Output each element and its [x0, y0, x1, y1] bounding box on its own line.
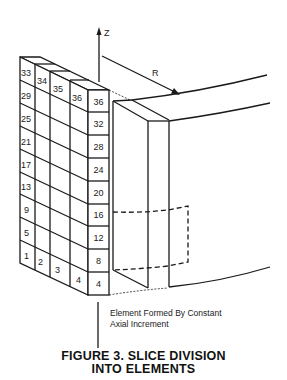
annotation-line-2: Axial Increment — [110, 319, 169, 329]
slab-bottom-curve — [169, 267, 270, 287]
cell-label: 34 — [37, 76, 47, 86]
cell-label: 20 — [93, 188, 103, 198]
cell-label: 25 — [21, 114, 31, 124]
cell-label: 8 — [96, 256, 101, 266]
cell-label: 35 — [53, 84, 63, 94]
cell-label: 1 — [24, 251, 29, 261]
cell-label: 29 — [21, 91, 31, 101]
cell-label: 33 — [21, 68, 31, 78]
z-axis-arrowhead-icon — [97, 27, 102, 35]
radius-arrow-line — [102, 56, 177, 93]
cell-label: 21 — [21, 137, 31, 147]
cell-label: 2 — [38, 257, 43, 267]
slab-inner-top-curve — [169, 103, 270, 121]
cell-label: 12 — [93, 233, 103, 243]
axial-element-dashed — [113, 206, 188, 270]
cell-label: 16 — [93, 210, 103, 220]
cell-label: 13 — [21, 182, 31, 192]
cell-label: 28 — [93, 142, 103, 152]
cell-label: 36 — [72, 93, 82, 103]
cell-label: 4 — [76, 275, 81, 285]
cell-label: 5 — [24, 228, 29, 238]
cell-label: 24 — [93, 165, 103, 175]
slice-division-diagram: Z R 36 32 28 24 20 16 12 8 4 33 29 25 21… — [0, 0, 287, 380]
annotation-line-1: Element Formed By Constant — [110, 308, 222, 318]
cell-label: 17 — [21, 160, 31, 170]
slab-outer-top-curve — [132, 75, 267, 100]
figure-caption-line-2: INTO ELEMENTS — [0, 363, 287, 376]
cell-label: 32 — [93, 119, 103, 129]
cell-label: 36 — [93, 97, 103, 107]
cell-label: 4 — [96, 279, 101, 289]
cell-label: 9 — [24, 205, 29, 215]
radius-label: R — [152, 68, 159, 78]
z-axis-label: Z — [104, 28, 110, 38]
cell-label: 3 — [55, 265, 60, 275]
